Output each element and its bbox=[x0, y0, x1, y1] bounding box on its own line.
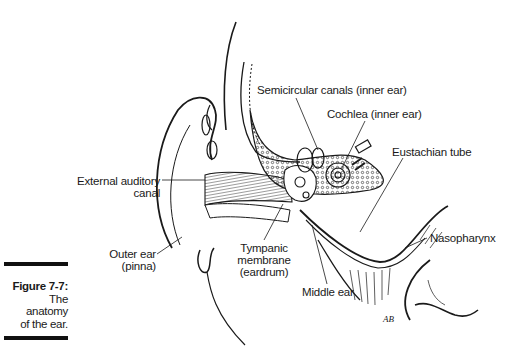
label-tympanic-membrane: Tympanic membrane (eardrum) bbox=[228, 242, 300, 278]
label-outer-ear: Outer ear (pinna) bbox=[70, 248, 156, 272]
label-eustachian-tube: Eustachian tube bbox=[392, 146, 471, 158]
caption-line: The bbox=[0, 293, 68, 306]
caption-line: of the ear. bbox=[0, 318, 68, 331]
external-auditory-canal bbox=[205, 172, 292, 222]
label-external-auditory-canal: External auditory canal bbox=[40, 175, 160, 199]
label-line: (pinna) bbox=[70, 260, 156, 272]
label-line: Outer ear bbox=[70, 248, 156, 260]
label-line: membrane bbox=[228, 254, 300, 266]
label-nasopharynx: Nasopharynx bbox=[430, 232, 496, 244]
label-line: canal bbox=[40, 187, 160, 199]
nasopharynx-region bbox=[350, 225, 442, 305]
facial-outline bbox=[405, 260, 478, 320]
label-cochlea: Cochlea (inner ear) bbox=[327, 108, 422, 120]
caption-rule-bottom bbox=[4, 336, 68, 340]
figure-caption: Figure 7-7: The anatomy of the ear. bbox=[0, 262, 68, 340]
caption-line: anatomy bbox=[0, 305, 68, 318]
label-line: External auditory bbox=[40, 175, 160, 187]
label-semicircular-canals: Semicircular canals (inner ear) bbox=[257, 84, 407, 96]
outer-ear-pinna bbox=[157, 98, 245, 345]
label-line: (eardrum) bbox=[228, 266, 300, 278]
label-line: Tympanic bbox=[228, 242, 300, 254]
label-middle-ear: Middle ear bbox=[302, 286, 354, 298]
figure-number: Figure 7-7: bbox=[0, 280, 68, 293]
artist-initials: AB bbox=[382, 314, 394, 324]
caption-rule-top bbox=[4, 262, 68, 266]
